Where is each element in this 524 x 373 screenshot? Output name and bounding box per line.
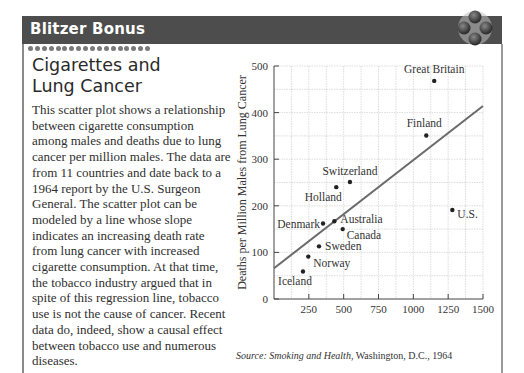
- data-point: [321, 221, 325, 225]
- title-line-2: Lung Cancer: [32, 76, 232, 97]
- point-label: Denmark: [277, 218, 320, 230]
- y-tick-label: 400: [252, 107, 269, 119]
- source-label-title: Source: Smoking and Health: [236, 350, 351, 361]
- point-label: Norway: [313, 257, 350, 270]
- y-tick-label: 200: [252, 200, 269, 212]
- point-label: Australia: [340, 213, 382, 225]
- point-label: Switzerland: [322, 165, 377, 177]
- point-label: Canada: [347, 229, 381, 241]
- y-tick-label: 100: [252, 246, 269, 258]
- point-label: Sweden: [325, 240, 362, 252]
- source-citation: Source: Smoking and Health, Washington, …: [236, 350, 452, 361]
- left-border: [22, 44, 24, 373]
- x-tick-label: 1000: [402, 303, 425, 315]
- header-title: Blitzer Bonus: [30, 20, 145, 38]
- point-label: U.S.: [457, 208, 478, 220]
- point-label: Great Britain: [404, 63, 465, 75]
- data-point: [301, 269, 305, 273]
- blitzer-bonus-header: Blitzer Bonus: [22, 16, 502, 44]
- scatter-plot: 0100200300400500250500750100012501500Ann…: [228, 55, 500, 315]
- data-point: [432, 79, 436, 83]
- dotted-divider: [28, 46, 150, 51]
- y-axis-label: Deaths per Million Males from Lung Cance…: [235, 75, 249, 290]
- data-point: [306, 254, 310, 258]
- point-label: Holland: [305, 191, 342, 203]
- y-tick-label: 500: [252, 60, 269, 72]
- x-tick-label: 1250: [437, 303, 460, 315]
- right-border: [501, 44, 503, 373]
- data-point: [424, 133, 428, 137]
- title-line-1: Cigarettes and: [32, 55, 232, 76]
- point-label: Iceland: [278, 275, 312, 287]
- y-tick-label: 0: [263, 293, 269, 305]
- data-point: [348, 180, 352, 184]
- body-paragraph: This scatter plot shows a relationship b…: [32, 102, 232, 369]
- x-tick-label: 250: [301, 303, 318, 315]
- y-tick-label: 300: [252, 153, 269, 165]
- x-tick-label: 750: [370, 303, 387, 315]
- x-tick-label: 1500: [472, 303, 495, 315]
- four-petal-ornament-icon: [452, 8, 498, 48]
- data-point: [340, 227, 344, 231]
- x-tick-label: 500: [335, 303, 352, 315]
- section-title: Cigarettes and Lung Cancer: [32, 55, 232, 97]
- point-label: Finland: [407, 117, 442, 129]
- data-point: [450, 208, 454, 212]
- data-point: [332, 219, 336, 223]
- data-point: [334, 185, 338, 189]
- data-point: [317, 244, 321, 248]
